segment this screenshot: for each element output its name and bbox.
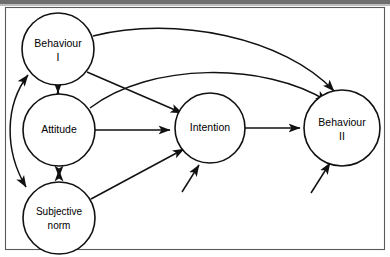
edge-external-to-intention [182, 165, 199, 192]
node-behaviour2-label-line1: Behaviour [318, 116, 366, 128]
node-subjective-norm-label-line2: norm [48, 220, 71, 231]
node-attitude-label: Attitude [41, 123, 77, 135]
node-behaviour1[interactable]: Behaviour I [22, 13, 94, 85]
node-behaviour1-label-line1: Behaviour [34, 37, 82, 49]
diagram-canvas: Behaviour I Attitude Subjective norm Int… [0, 0, 390, 257]
node-intention[interactable]: Intention [175, 93, 245, 163]
node-subjective-norm[interactable]: Subjective norm [23, 182, 95, 254]
node-attitude[interactable]: Attitude [23, 94, 95, 166]
node-behaviour2[interactable]: Behaviour II [304, 90, 380, 166]
node-intention-label: Intention [190, 121, 230, 133]
node-subjective-norm-label-line1: Subjective [36, 206, 83, 217]
behaviour-model-diagram: Behaviour I Attitude Subjective norm Int… [0, 0, 390, 257]
edge-external-to-behaviour2 [311, 163, 330, 193]
node-behaviour2-label-line2: II [339, 130, 345, 142]
edge-behaviour1-to-behaviour2 [93, 28, 334, 91]
edge-behaviour1-to-intention [87, 72, 182, 113]
edge-subjective-to-intention [91, 149, 184, 199]
node-behaviour1-label-line2: I [57, 51, 60, 63]
